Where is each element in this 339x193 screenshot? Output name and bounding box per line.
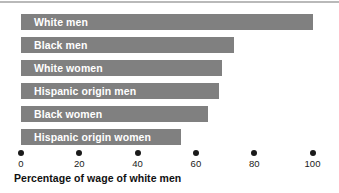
bar-category-label: Hispanic origin women xyxy=(34,129,151,145)
x-axis-tick-mark xyxy=(310,150,316,156)
bar-category-label: Black men xyxy=(34,37,87,53)
bar-category-label: White men xyxy=(34,14,88,30)
x-axis-tick-mark xyxy=(251,150,257,156)
bar-category-label: Hispanic origin men xyxy=(34,83,136,99)
x-axis-tick-label: 100 xyxy=(305,158,321,169)
x-axis-tick-mark xyxy=(18,150,24,156)
x-axis-label: Percentage of wage of white men xyxy=(14,172,181,184)
x-axis-tick-label: 40 xyxy=(132,158,143,169)
bar-category-label: Black women xyxy=(34,106,102,122)
x-axis: 020406080100 xyxy=(0,150,339,172)
x-axis-tick-mark xyxy=(135,150,141,156)
x-axis-tick-label: 80 xyxy=(249,158,260,169)
x-axis-tick-mark xyxy=(76,150,82,156)
x-axis-tick-label: 20 xyxy=(74,158,85,169)
x-axis-tick-label: 0 xyxy=(18,158,23,169)
bar-category-label: White women xyxy=(34,60,103,76)
x-axis-tick-mark xyxy=(193,150,199,156)
wage-gap-bar-chart: White menBlack menWhite womenHispanic or… xyxy=(0,0,339,193)
x-axis-tick-label: 60 xyxy=(191,158,202,169)
